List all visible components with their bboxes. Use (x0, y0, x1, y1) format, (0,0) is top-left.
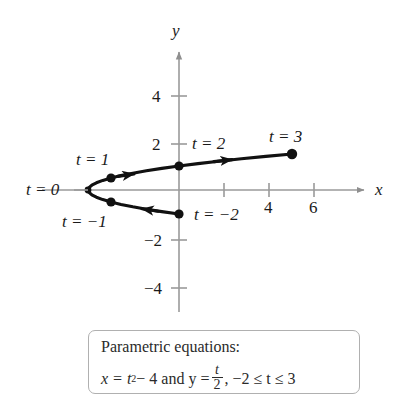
label-t-equals-3: t = 3 (269, 128, 302, 145)
point-t-2 (174, 161, 183, 170)
direction-arrow-upper-right (214, 160, 232, 162)
caption-title: Parametric equations: (101, 338, 240, 356)
x-tick-label-6: 6 (309, 199, 318, 216)
point-t-minus-2 (174, 209, 183, 218)
y-tick-label-4: 4 (152, 88, 161, 105)
label-t-equals-minus-2: t = −2 (194, 206, 239, 223)
y-axis-label: y (172, 22, 180, 39)
equation-suffix: , −2 ≤ t ≤ 3 (225, 370, 296, 388)
label-t-equals-1: t = 1 (76, 151, 109, 168)
equation-prefix: x = t (101, 370, 131, 388)
fraction-t-over-2: t2 (212, 363, 223, 393)
parametric-curve-figure: y x 4 2 −2 −4 4 6 t = 0 t = 1 t = −1 t =… (0, 0, 404, 403)
point-t-1 (106, 173, 115, 182)
x-axis-label: x (375, 181, 383, 198)
fraction-numerator: t (213, 363, 221, 377)
parametric-curve (88, 154, 292, 214)
label-t-equals-2: t = 2 (192, 135, 225, 152)
label-t-equals-0: t = 0 (26, 181, 59, 198)
y-tick-label-minus-4: −4 (144, 280, 162, 297)
fraction-denominator: 2 (212, 378, 223, 393)
point-t-3 (287, 149, 297, 159)
caption-equation: x = t2 − 4 and y = t2, −2 ≤ t ≤ 3 (101, 364, 296, 394)
label-t-equals-minus-1: t = −1 (62, 213, 107, 230)
caption-box: Parametric equations: x = t2 − 4 and y =… (88, 330, 360, 394)
y-tick-label-minus-2: −2 (144, 232, 162, 249)
x-tick-label-4: 4 (264, 199, 273, 216)
point-t-minus-1 (106, 197, 115, 206)
y-tick-label-2: 2 (152, 136, 161, 153)
equation-middle: − 4 and y = (136, 370, 209, 388)
